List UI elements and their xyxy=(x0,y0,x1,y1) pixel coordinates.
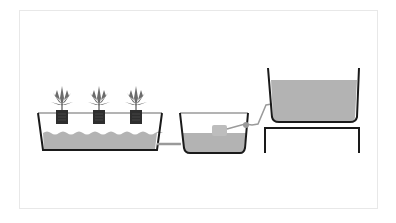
feed-line xyxy=(227,104,272,129)
cannabis-leaf-icon xyxy=(51,86,73,110)
control-bucket xyxy=(180,113,248,153)
reservoir-water xyxy=(271,80,357,121)
cannabis-leaf-icon xyxy=(88,86,110,110)
plant-3 xyxy=(125,86,147,124)
plant-2 xyxy=(88,86,110,124)
tray-water xyxy=(43,132,163,150)
plant-1 xyxy=(51,86,73,124)
hydroponic-system-diagram xyxy=(0,0,396,223)
valve-fitting xyxy=(243,122,249,128)
reservoir-stand xyxy=(265,128,359,153)
float-valve xyxy=(212,125,227,136)
reservoir xyxy=(268,68,359,122)
cannabis-leaf-icon xyxy=(125,86,147,110)
